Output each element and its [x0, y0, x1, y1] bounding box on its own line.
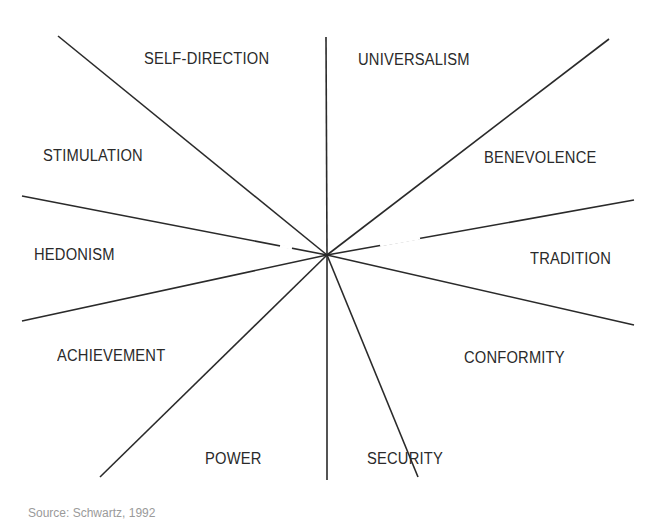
label-benevolence: BENEVOLENCE	[484, 149, 596, 167]
label-stimulation: STIMULATION	[43, 147, 143, 165]
label-universalism: UNIVERSALISM	[358, 51, 470, 69]
line-upper-right	[327, 39, 609, 255]
label-security: SECURITY	[367, 450, 443, 468]
line-mid-lower-left	[22, 255, 327, 321]
source-caption: Source: Schwartz, 1992	[28, 506, 155, 520]
line-lower-right	[327, 255, 418, 477]
label-self-direction: SELF-DIRECTION	[144, 50, 269, 68]
line-mid-upper-right	[327, 200, 634, 255]
line-upper-left	[58, 36, 327, 255]
label-achievement: ACHIEVEMENT	[57, 347, 165, 365]
line-vertical-top	[326, 37, 327, 255]
label-conformity: CONFORMITY	[464, 349, 565, 367]
label-hedonism: HEDONISM	[34, 246, 115, 264]
line-lower-left	[100, 255, 327, 477]
label-tradition: TRADITION	[530, 250, 611, 268]
label-power: POWER	[205, 450, 262, 468]
